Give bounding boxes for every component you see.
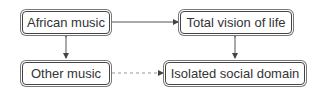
node-label: Isolated social domain [171, 67, 300, 80]
node-label: African music [27, 16, 105, 29]
node-african-music: African music [22, 11, 110, 34]
node-label: Total vision of life [187, 16, 286, 29]
node-total-vision-of-life: Total vision of life [180, 11, 292, 34]
node-isolated-social-domain: Isolated social domain [165, 62, 305, 85]
node-other-music: Other music [22, 62, 110, 85]
node-label: Other music [31, 67, 101, 80]
